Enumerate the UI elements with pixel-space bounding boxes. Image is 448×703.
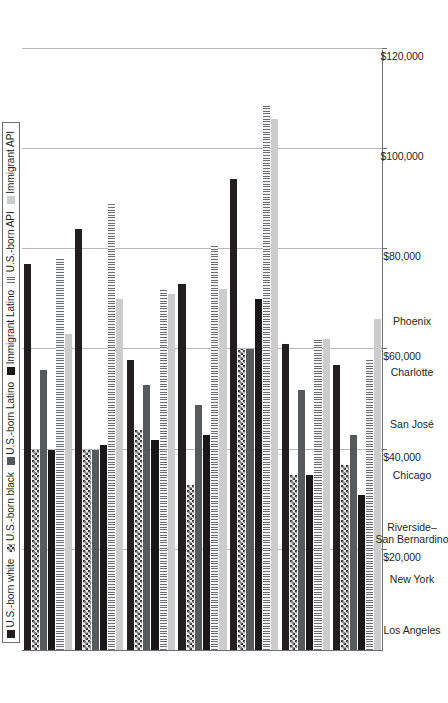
category-label: Chicago — [393, 471, 432, 483]
legend-swatch-icon — [7, 196, 15, 204]
bar — [219, 289, 226, 650]
legend-item: Immigrant Latino — [5, 290, 16, 375]
bar — [366, 360, 373, 650]
category-label: San José — [390, 419, 434, 431]
legend-item: U.S.-born white — [5, 559, 16, 638]
bar — [65, 334, 72, 650]
category-labels: Los AngelesNew YorkRiverside– San Bernar… — [404, 50, 424, 651]
category-label: Charlotte — [391, 367, 434, 379]
bar — [282, 345, 289, 651]
legend-label: U.S.-born white — [5, 559, 16, 628]
bar — [271, 119, 278, 650]
bar — [40, 370, 47, 650]
legend-item: U.S.-born black — [5, 472, 16, 551]
plot-area — [22, 50, 383, 651]
legend-label: Immigrant API — [5, 131, 16, 194]
bar — [323, 339, 330, 650]
bar — [160, 289, 167, 650]
bar — [32, 450, 39, 650]
legend-label: U.S.-born Latino — [5, 382, 16, 455]
category-label: Riverside– San Bernardino — [376, 522, 448, 545]
bar — [195, 405, 202, 650]
bar — [211, 244, 218, 650]
bar — [75, 229, 82, 650]
bar — [374, 319, 381, 650]
category-label: Los Angeles — [383, 625, 440, 637]
bar — [48, 450, 55, 650]
legend-swatch-icon — [7, 630, 15, 638]
legend-swatch-icon — [7, 457, 15, 465]
bar — [230, 179, 237, 650]
axis-tick — [382, 449, 387, 450]
bar — [263, 104, 270, 650]
bar — [255, 299, 262, 650]
bar — [151, 440, 158, 650]
axis-tick — [382, 48, 387, 49]
bar — [203, 435, 210, 650]
legend-item: U.S.-born Latino — [5, 382, 16, 465]
bar — [83, 450, 90, 650]
legend-swatch-icon — [7, 544, 15, 552]
bar — [116, 299, 123, 650]
bar — [333, 365, 340, 650]
gridline — [22, 48, 382, 49]
bar — [238, 350, 245, 651]
bar — [298, 390, 305, 650]
bar — [127, 360, 134, 650]
bar — [246, 350, 253, 651]
bar — [100, 445, 107, 650]
gridline — [22, 148, 382, 149]
axis-tick — [382, 549, 387, 550]
legend-label: U.S.-born black — [5, 472, 16, 541]
bar — [290, 475, 297, 650]
bar — [341, 465, 348, 650]
legend-label: U.S.-born API — [5, 211, 16, 272]
bar — [178, 284, 185, 650]
category-label: New York — [390, 574, 434, 586]
bar — [314, 339, 321, 650]
legend-swatch-icon — [7, 367, 15, 375]
bar — [358, 495, 365, 650]
legend-swatch-icon — [7, 275, 15, 283]
legend-item: Immigrant API — [5, 131, 16, 204]
bar — [92, 450, 99, 650]
bar — [306, 475, 313, 650]
bar — [108, 204, 115, 650]
chart-legend: U.S.-born whiteU.S.-born blackU.S.-born … — [2, 122, 20, 643]
bar — [143, 385, 150, 650]
legend-label: Immigrant Latino — [5, 290, 16, 364]
bar — [24, 264, 31, 650]
bar — [187, 485, 194, 650]
bar — [56, 259, 63, 650]
legend-item: U.S.-born API — [5, 211, 16, 283]
category-label: Phoenix — [393, 316, 431, 328]
bar — [135, 430, 142, 650]
bar — [168, 294, 175, 650]
bar — [350, 435, 357, 650]
